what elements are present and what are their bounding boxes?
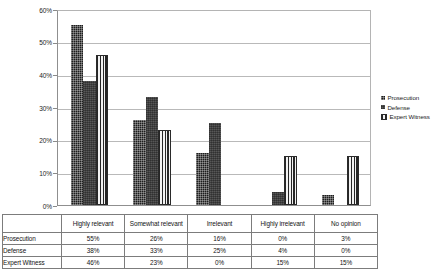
table-body: Prosecution55%26%16%0%3%Defense38%33%25%… bbox=[3, 233, 378, 269]
table-cell: 16% bbox=[188, 233, 251, 245]
table-column-header: Highly relevant bbox=[62, 215, 125, 233]
table-row-header: Expert Witness bbox=[3, 257, 62, 269]
table-cell: 23% bbox=[125, 257, 188, 269]
bar bbox=[347, 156, 360, 205]
y-axis-tick-mark bbox=[53, 108, 57, 109]
table-cell: 38% bbox=[62, 245, 125, 257]
table-corner-cell bbox=[3, 215, 62, 233]
table-row: Defense38%33%25%4%0% bbox=[3, 245, 378, 257]
table-cell: 0% bbox=[314, 245, 377, 257]
y-axis-tick-label: 0% bbox=[22, 203, 52, 210]
table-row-header: Prosecution bbox=[3, 233, 62, 245]
table-row: Prosecution55%26%16%0%3% bbox=[3, 233, 378, 245]
chart-legend: ProsecutionDefenseExpert Witness bbox=[381, 93, 433, 122]
table-cell: 0% bbox=[188, 257, 251, 269]
table-cell: 33% bbox=[125, 245, 188, 257]
bar-group bbox=[58, 11, 121, 205]
table-header-row: Highly relevantSomewhat relevantIrreleva… bbox=[3, 215, 378, 233]
table-column-header: Highly irrelevant bbox=[251, 215, 314, 233]
bar bbox=[196, 153, 209, 205]
table-cell: 4% bbox=[251, 245, 314, 257]
bar-chart: 60%50%40%30%20%10%0% ProsecutionDefenseE… bbox=[0, 0, 433, 214]
y-axis: 60%50%40%30%20%10%0% bbox=[18, 0, 52, 214]
legend-swatch-icon bbox=[381, 105, 385, 109]
bar bbox=[71, 25, 84, 205]
table-cell: 26% bbox=[125, 233, 188, 245]
y-axis-tick-label: 60% bbox=[22, 7, 52, 14]
legend-item-label: Defense bbox=[388, 104, 410, 111]
bar bbox=[158, 130, 171, 205]
bar bbox=[83, 81, 96, 205]
y-axis-tick-label: 10% bbox=[22, 170, 52, 177]
table-column-header: No opinion bbox=[314, 215, 377, 233]
y-axis-tick-label: 30% bbox=[22, 105, 52, 112]
y-axis-tick-label: 20% bbox=[22, 137, 52, 144]
legend-swatch-icon bbox=[381, 114, 387, 120]
y-axis-tick-mark bbox=[53, 206, 57, 207]
table-cell: 15% bbox=[251, 257, 314, 269]
plot-area bbox=[57, 10, 371, 206]
bar-group bbox=[309, 11, 372, 205]
legend-item[interactable]: Expert Witness bbox=[381, 112, 433, 121]
table-cell: 55% bbox=[62, 233, 125, 245]
bar bbox=[133, 120, 146, 205]
data-table: Highly relevantSomewhat relevantIrreleva… bbox=[2, 214, 378, 269]
bar bbox=[284, 156, 297, 205]
y-axis-tick-mark bbox=[53, 75, 57, 76]
bar bbox=[96, 55, 109, 205]
y-axis-tick-mark bbox=[53, 43, 57, 44]
legend-item[interactable]: Defense bbox=[381, 103, 433, 112]
legend-item-label: Prosecution bbox=[388, 94, 420, 101]
y-axis-tick-mark bbox=[53, 141, 57, 142]
bar-group bbox=[184, 11, 247, 205]
bar-group bbox=[121, 11, 184, 205]
bar bbox=[146, 97, 159, 205]
table-cell: 15% bbox=[314, 257, 377, 269]
table-cell: 3% bbox=[314, 233, 377, 245]
bar bbox=[272, 192, 285, 205]
table-cell: 0% bbox=[251, 233, 314, 245]
bar bbox=[209, 123, 222, 205]
legend-item-label: Expert Witness bbox=[390, 113, 430, 120]
bar-group bbox=[246, 11, 309, 205]
legend-swatch-icon bbox=[381, 96, 385, 100]
y-axis-tick-label: 40% bbox=[22, 72, 52, 79]
table-cell: 46% bbox=[62, 257, 125, 269]
bar bbox=[322, 195, 335, 205]
table-row: Expert Witness46%23%0%15%15% bbox=[3, 257, 378, 269]
table-cell: 25% bbox=[188, 245, 251, 257]
legend-item[interactable]: Prosecution bbox=[381, 93, 433, 102]
y-axis-tick-label: 50% bbox=[22, 39, 52, 46]
table-column-header: Somewhat relevant bbox=[125, 215, 188, 233]
table-row-header: Defense bbox=[3, 245, 62, 257]
y-axis-tick-mark bbox=[53, 10, 57, 11]
y-axis-tick-mark bbox=[53, 173, 57, 174]
table-column-header: Irrelevant bbox=[188, 215, 251, 233]
